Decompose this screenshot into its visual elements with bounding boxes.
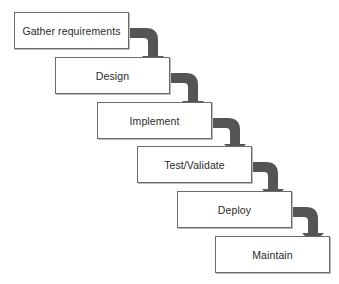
stage-label: Deploy	[218, 204, 251, 216]
stage-implement: Implement	[97, 102, 212, 139]
stage-label: Maintain	[252, 249, 293, 261]
stage-label: Design	[96, 70, 129, 82]
stage-test-validate: Test/Validate	[137, 146, 252, 183]
stage-deploy: Deploy	[177, 191, 292, 228]
stage-label: Implement	[130, 115, 180, 127]
stage-label: Gather requirements	[22, 25, 120, 37]
stage-design: Design	[55, 57, 170, 94]
stage-maintain: Maintain	[215, 236, 330, 273]
stage-gather-requirements: Gather requirements	[14, 12, 129, 49]
stage-label: Test/Validate	[164, 159, 225, 171]
